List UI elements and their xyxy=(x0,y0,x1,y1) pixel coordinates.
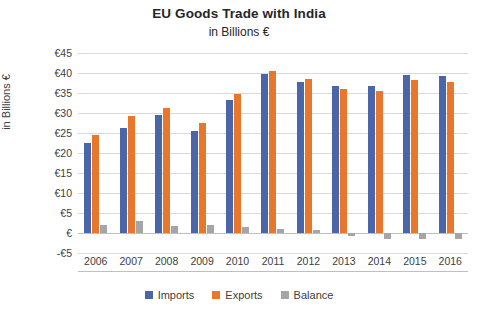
y-axis-tick-label: €10 xyxy=(24,187,72,199)
bar-exports-2016[interactable] xyxy=(447,82,454,233)
x-axis-tick-label: 2009 xyxy=(190,255,213,267)
bar-exports-2011[interactable] xyxy=(269,71,276,233)
y-axis-tick-label: €15 xyxy=(24,167,72,179)
bar-group xyxy=(255,53,290,253)
y-axis-tick-label: € xyxy=(24,227,72,239)
bar-group xyxy=(397,53,432,253)
legend-swatch-balance-icon xyxy=(281,291,289,299)
bar-balance-2012[interactable] xyxy=(313,230,320,233)
bar-imports-2015[interactable] xyxy=(403,75,410,233)
x-axis-tick-label: 2007 xyxy=(119,255,142,267)
bar-group xyxy=(433,53,468,253)
x-axis-tick-label: 2015 xyxy=(403,255,426,267)
x-axis-tick-label: 2006 xyxy=(84,255,107,267)
bar-group xyxy=(149,53,184,253)
bar-imports-2010[interactable] xyxy=(226,100,233,233)
x-axis-tick-label: 2014 xyxy=(368,255,391,267)
gridline xyxy=(78,253,468,254)
bar-balance-2006[interactable] xyxy=(100,225,107,233)
bar-balance-2011[interactable] xyxy=(277,229,284,233)
bar-balance-2009[interactable] xyxy=(207,225,214,233)
bar-exports-2009[interactable] xyxy=(199,123,206,233)
x-axis-tick-label: 2016 xyxy=(439,255,462,267)
x-axis-tick-labels: 2006200720082009201020112012201320142015… xyxy=(78,255,468,273)
y-axis-tick-label: €5 xyxy=(24,207,72,219)
chart-legend: ImportsExportsBalance xyxy=(0,289,478,301)
bar-group xyxy=(362,53,397,253)
bar-balance-2014[interactable] xyxy=(384,233,391,239)
y-axis-tick-label: €45 xyxy=(24,47,72,59)
y-axis-tick-label: €35 xyxy=(24,87,72,99)
bar-imports-2011[interactable] xyxy=(261,74,268,233)
legend-label: Imports xyxy=(158,289,195,301)
bar-exports-2010[interactable] xyxy=(234,94,241,233)
legend-item-balance[interactable]: Balance xyxy=(281,289,334,301)
bar-group xyxy=(220,53,255,253)
bar-group xyxy=(78,53,113,253)
y-axis-tick-label: -€5 xyxy=(24,247,72,259)
bar-exports-2012[interactable] xyxy=(305,79,312,233)
chart-subtitle: in Billions € xyxy=(0,25,478,39)
y-axis-tick-label: €40 xyxy=(24,67,72,79)
bar-exports-2006[interactable] xyxy=(92,135,99,233)
legend-label: Exports xyxy=(225,289,262,301)
chart-container: EU Goods Trade with India in Billions € … xyxy=(0,0,478,315)
bar-group xyxy=(291,53,326,253)
bar-group xyxy=(113,53,148,253)
y-axis-title: in Billions € xyxy=(0,42,14,162)
y-axis-tick-label: €25 xyxy=(24,127,72,139)
bars-layer xyxy=(78,53,468,253)
bar-exports-2008[interactable] xyxy=(163,108,170,233)
x-axis-tick-label: 2011 xyxy=(262,255,285,267)
x-axis-tick-label: 2013 xyxy=(332,255,355,267)
x-axis-tick-label: 2010 xyxy=(226,255,249,267)
legend-swatch-imports-icon xyxy=(145,291,153,299)
bar-group xyxy=(184,53,219,253)
legend-item-exports[interactable]: Exports xyxy=(212,289,262,301)
chart-title: EU Goods Trade with India xyxy=(0,6,478,21)
bar-balance-2008[interactable] xyxy=(171,226,178,233)
bar-exports-2007[interactable] xyxy=(128,116,135,233)
bar-balance-2013[interactable] xyxy=(348,233,355,236)
x-axis-tick-label: 2012 xyxy=(297,255,320,267)
legend-label: Balance xyxy=(294,289,334,301)
bar-balance-2007[interactable] xyxy=(136,221,143,233)
bar-imports-2006[interactable] xyxy=(84,143,91,233)
bar-balance-2010[interactable] xyxy=(242,227,249,233)
legend-item-imports[interactable]: Imports xyxy=(145,289,195,301)
bar-imports-2007[interactable] xyxy=(120,128,127,233)
bar-exports-2014[interactable] xyxy=(376,91,383,233)
bar-imports-2012[interactable] xyxy=(297,82,304,233)
bar-balance-2015[interactable] xyxy=(419,233,426,239)
bar-group xyxy=(326,53,361,253)
y-axis-tick-label: €30 xyxy=(24,107,72,119)
x-axis-tick-label: 2008 xyxy=(155,255,178,267)
y-axis-tick-label: €20 xyxy=(24,147,72,159)
bar-imports-2009[interactable] xyxy=(191,131,198,233)
bar-exports-2013[interactable] xyxy=(340,89,347,233)
bar-imports-2014[interactable] xyxy=(368,86,375,233)
bar-imports-2016[interactable] xyxy=(439,76,446,233)
bar-exports-2015[interactable] xyxy=(411,80,418,233)
bar-imports-2013[interactable] xyxy=(332,86,339,233)
bar-balance-2016[interactable] xyxy=(455,233,462,239)
legend-swatch-exports-icon xyxy=(212,291,220,299)
bar-imports-2008[interactable] xyxy=(155,115,162,233)
